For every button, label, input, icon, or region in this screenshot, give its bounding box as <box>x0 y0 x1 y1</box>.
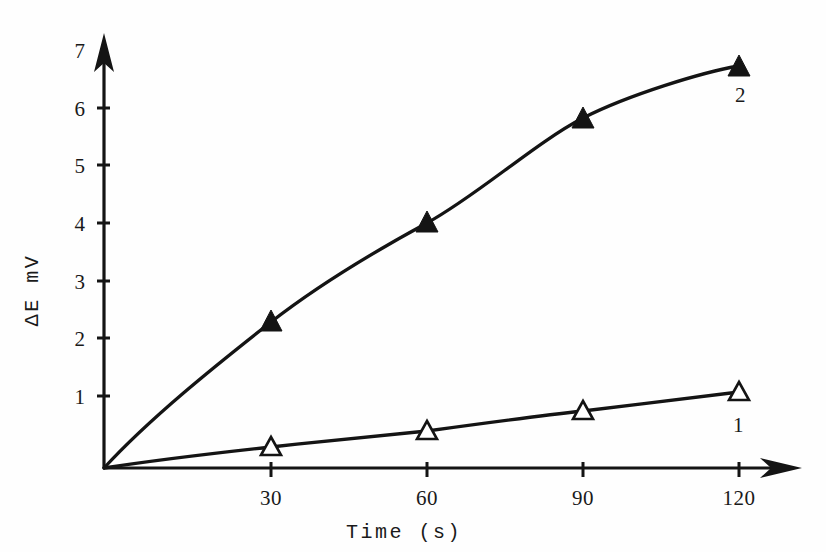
series-2-line <box>104 66 739 468</box>
y-axis-title: ΔE mV <box>21 254 44 327</box>
chart-plot-area: 7 6 5 4 3 2 1 ΔE mV 30 60 90 <box>0 0 826 552</box>
y-tick-label-7: 7 <box>75 39 86 63</box>
series-2-marker-30 <box>260 310 282 331</box>
series-2: 2 <box>104 55 750 468</box>
x-axis-tick-labels: 30 60 90 120 <box>260 486 756 510</box>
y-tick-label-4: 4 <box>75 212 86 236</box>
series-1: 1 <box>104 382 749 468</box>
x-tick-label-120: 120 <box>723 486 756 510</box>
chart-figure: 7 6 5 4 3 2 1 ΔE mV 30 60 90 <box>0 0 826 552</box>
series-2-marker-120 <box>728 55 750 76</box>
x-axis: 30 60 90 120 Time (s) <box>104 458 802 544</box>
x-tick-label-90: 90 <box>572 486 594 510</box>
x-axis-title: Time (s) <box>346 521 462 544</box>
y-tick-label-1: 1 <box>75 385 86 409</box>
series-2-label: 2 <box>735 83 746 107</box>
series-1-markers <box>261 382 749 455</box>
x-tick-label-30: 30 <box>260 486 282 510</box>
series-1-label: 1 <box>733 413 744 437</box>
series-2-markers <box>260 55 750 331</box>
series-2-marker-90 <box>572 107 594 128</box>
y-tick-label-6: 6 <box>75 97 86 121</box>
x-tick-label-60: 60 <box>416 486 438 510</box>
y-axis-tick-labels: 7 6 5 4 3 2 1 <box>75 39 86 409</box>
y-tick-label-3: 3 <box>75 270 86 294</box>
y-tick-label-2: 2 <box>75 327 86 351</box>
y-tick-label-5: 5 <box>75 154 86 178</box>
y-axis: 7 6 5 4 3 2 1 ΔE mV <box>21 33 114 468</box>
series-2-marker-60 <box>416 211 438 232</box>
series-1-marker-120 <box>729 382 749 400</box>
